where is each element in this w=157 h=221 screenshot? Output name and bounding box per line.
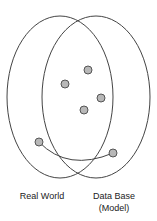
data-base-ellipse (42, 16, 150, 178)
mapping-connector (39, 142, 113, 160)
data-base-point (109, 149, 117, 157)
data-point (80, 106, 88, 114)
real-world-point (35, 138, 43, 146)
model-sublabel: (Model) (99, 203, 130, 213)
data-base-label: Data Base (93, 191, 135, 201)
venn-diagram: Real World Data Base (Model) (0, 0, 157, 221)
data-point (97, 94, 105, 102)
data-point (84, 66, 92, 74)
data-point (61, 80, 69, 88)
real-world-label: Real World (20, 191, 64, 201)
